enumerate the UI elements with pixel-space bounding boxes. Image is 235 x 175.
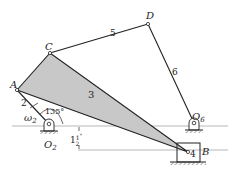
label-d: D bbox=[145, 10, 154, 21]
label-offset: 112" bbox=[70, 132, 82, 147]
label-link-2: 2 bbox=[21, 98, 27, 108]
link-3-triangle bbox=[17, 53, 188, 152]
label-o2: O2 bbox=[44, 139, 57, 152]
label-link-5: 5 bbox=[110, 28, 116, 38]
label-c: C bbox=[45, 41, 53, 52]
label-b: B bbox=[201, 146, 209, 157]
pin-d bbox=[146, 22, 149, 25]
link-5 bbox=[50, 24, 148, 53]
mechanism-diagram: A C D B O2 O6 2 3 4 5 6 ω2 135° 112" bbox=[0, 0, 235, 175]
label-a: A bbox=[9, 79, 17, 90]
label-omega-2: ω2 bbox=[24, 112, 37, 125]
label-link-4: 4 bbox=[190, 149, 196, 159]
link-6 bbox=[148, 24, 194, 123]
label-angle: 135° bbox=[45, 107, 64, 116]
label-link-3: 3 bbox=[88, 89, 94, 100]
ground-pivot-o2 bbox=[40, 119, 58, 134]
label-link-6: 6 bbox=[172, 67, 178, 77]
